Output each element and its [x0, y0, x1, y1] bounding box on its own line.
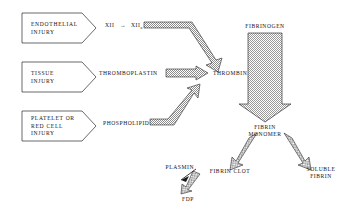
- thrombin-label: THROMBIN: [213, 70, 247, 77]
- injury-box-platelet-label: PLATELET ORRED CELLINJURY: [31, 115, 75, 138]
- arrow-phospholipid-to-thrombin: [150, 84, 200, 125]
- plasmin-label: PLASMIN: [166, 164, 194, 171]
- phospholipid-label: PHOSPHOLIPID: [103, 120, 149, 127]
- factor-xii-label: XII: [105, 22, 114, 29]
- reaction-arrow-glyph: →: [120, 22, 126, 29]
- fibrin-clot-label: FIBRIN CLOT: [210, 168, 250, 175]
- injury-box-tissue-label: TISSUEINJURY: [31, 70, 55, 85]
- arrow-xiia-to-thrombin: [144, 22, 222, 72]
- injury-box-endothelial-label: ENDOTHELIALINJURY: [31, 21, 78, 36]
- soluble-fibrin-label: SOLUBLEFIBRIN: [306, 166, 335, 181]
- arrow-clot-to-fdp: [181, 171, 200, 194]
- fdp-label: FDP: [182, 196, 194, 203]
- factor-xiia-label: XIIa: [131, 22, 142, 32]
- thromboplastin-label: THROMBOPLASTIN: [99, 70, 158, 77]
- fibrin-monomer-label: FIBRINMONOMER: [248, 124, 281, 139]
- arrow-monomer-to-soluble-fibrin: [284, 133, 311, 170]
- coagulation-cascade-diagram: ENDOTHELIALINJURY TISSUEINJURY PLATELET …: [0, 0, 358, 209]
- arrow-fibrinogen-to-monomer: [239, 33, 291, 122]
- fibrinogen-label: FIBRINOGEN: [245, 23, 284, 30]
- arrow-thromboplastin-to-thrombin: [166, 66, 208, 80]
